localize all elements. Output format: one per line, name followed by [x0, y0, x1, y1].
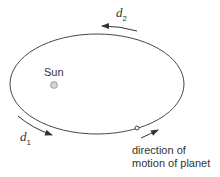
sun — [51, 82, 57, 88]
orbit-diagram — [0, 0, 220, 177]
planet — [135, 126, 139, 130]
sun-label: Sun — [44, 66, 64, 79]
d2-arrow — [102, 26, 137, 31]
d2-subscript: 2 — [123, 14, 127, 23]
motion-arrow — [141, 130, 158, 138]
elliptical-orbit — [10, 34, 184, 134]
d2-label: d2 — [116, 6, 127, 25]
d1-subscript: 1 — [27, 138, 31, 147]
d1-label: d1 — [20, 130, 31, 149]
motion-label-line2: motion of planet — [132, 157, 210, 170]
motion-label-line1: direction of — [132, 144, 186, 157]
